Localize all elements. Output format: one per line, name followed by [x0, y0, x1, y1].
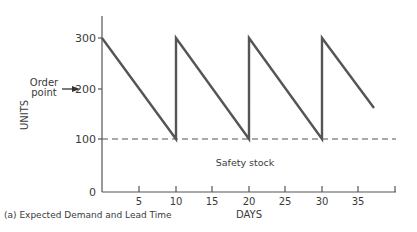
y-axis-label: UNITS — [19, 100, 30, 130]
x-tick-20: 20 — [243, 196, 256, 207]
y-tick-0: 0 — [89, 186, 96, 199]
x-tick-35: 35 — [352, 196, 365, 207]
x-tick-15: 15 — [206, 196, 219, 207]
order-point-label-2: point — [31, 87, 57, 98]
inventory-line — [102, 38, 374, 139]
y-tick-300: 300 — [75, 32, 96, 45]
y-tick-100: 100 — [75, 133, 96, 146]
x-tick-30: 30 — [316, 196, 329, 207]
x-tick-5: 5 — [136, 196, 142, 207]
y-tick-200: 200 — [75, 83, 96, 96]
x-axis-label: DAYS — [236, 209, 262, 220]
caption: (a) Expected Demand and Lead Time — [4, 210, 172, 220]
x-tick-25: 25 — [279, 196, 292, 207]
safety-stock-label: Safety stock — [216, 157, 275, 168]
x-tick-10: 10 — [170, 196, 183, 207]
inventory-chart: 300 200 100 0 5 10 15 20 25 30 35 Order … — [0, 0, 417, 232]
x-ticks — [139, 186, 395, 192]
